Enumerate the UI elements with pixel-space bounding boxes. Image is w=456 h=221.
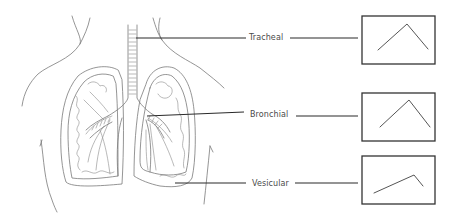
left-lung-drawing	[61, 67, 124, 186]
tracheal-waveform-box	[362, 16, 435, 64]
right-lung-drawing	[134, 67, 195, 187]
vesicular-label: Vesicular	[252, 179, 289, 189]
trachea	[108, 25, 152, 116]
bronchial-label: Bronchial	[250, 110, 288, 120]
lungs-illustration	[0, 0, 456, 221]
breath-sounds-diagram: Tracheal Bronchial Vesicular	[0, 0, 456, 221]
bronchial-leader-left	[147, 112, 244, 116]
bronchial-waveform-box	[362, 93, 435, 141]
tracheal-label: Tracheal	[249, 33, 283, 43]
bronchi	[86, 114, 170, 176]
leader-lines	[136, 38, 358, 183]
vesicular-waveform-box	[362, 156, 435, 204]
